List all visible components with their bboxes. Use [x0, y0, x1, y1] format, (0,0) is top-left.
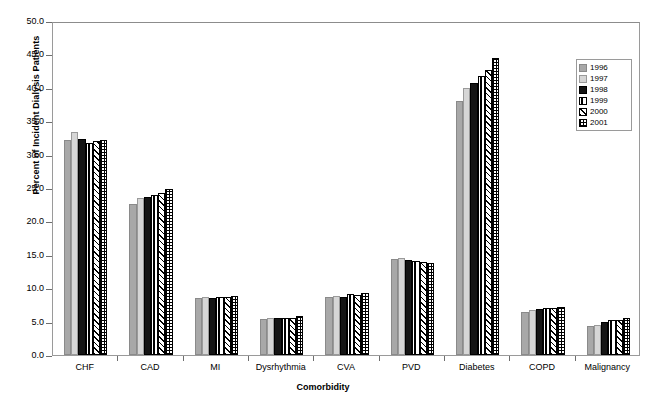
x-axis-tick-label: Malignancy [557, 362, 646, 372]
bar-mi-2001 [231, 296, 238, 355]
bar-malignancy-1998 [601, 322, 608, 355]
legend-item-1996[interactable]: 1996 [579, 62, 629, 73]
bar-cva-1999 [347, 294, 354, 355]
legend-swatch-icon [579, 64, 587, 72]
bar-diabetes-1996 [456, 101, 463, 356]
legend-label: 1999 [590, 97, 608, 105]
bar-chf-2000 [93, 141, 100, 355]
bar-pvd-1998 [405, 260, 412, 355]
legend: 199619971998199920002001 [576, 59, 632, 131]
legend-label: 2000 [590, 108, 608, 116]
bar-cad-1999 [151, 195, 158, 355]
legend-item-2000[interactable]: 2000 [579, 106, 629, 117]
bar-mi-1999 [216, 297, 223, 355]
bar-cva-2000 [354, 295, 361, 355]
bar-malignancy-2001 [623, 318, 630, 355]
bar-pvd-1999 [412, 261, 419, 355]
x-axis-tick-mark [183, 356, 184, 361]
bar-cva-1997 [333, 296, 340, 355]
y-axis-tick-label: 5.0 [4, 318, 44, 327]
x-axis-title: Comorbidity [0, 382, 646, 392]
y-axis-tick-label: 20.0 [4, 217, 44, 226]
legend-item-1997[interactable]: 1997 [579, 73, 629, 84]
bar-malignancy-1999 [608, 320, 615, 355]
bar-diabetes-1999 [478, 76, 485, 355]
x-axis-tick-mark [379, 356, 380, 361]
legend-label: 1996 [590, 64, 608, 72]
bar-pvd-1997 [398, 258, 405, 355]
bar-malignancy-1996 [587, 326, 594, 355]
legend-swatch-icon [579, 108, 587, 116]
bar-chf-1999 [86, 143, 93, 355]
legend-item-1999[interactable]: 1999 [579, 95, 629, 106]
bar-copd-1999 [543, 308, 550, 355]
legend-swatch-icon [579, 75, 587, 83]
bar-pvd-2001 [427, 263, 434, 355]
bar-cad-2001 [165, 189, 172, 355]
bar-cva-1996 [325, 297, 332, 355]
bar-pvd-2000 [420, 262, 427, 355]
bar-cad-1998 [144, 197, 151, 355]
bar-copd-2001 [557, 307, 564, 355]
bar-cad-1997 [137, 198, 144, 355]
legend-label: 1998 [590, 86, 608, 94]
y-axis-tick-label: 25.0 [4, 184, 44, 193]
legend-item-2001[interactable]: 2001 [579, 117, 629, 128]
bar-diabetes-2001 [492, 58, 499, 355]
y-axis-tick-label: 0.0 [4, 351, 44, 360]
legend-label: 2001 [590, 119, 608, 127]
bar-copd-1998 [536, 309, 543, 355]
y-axis-tick-label: 50.0 [4, 17, 44, 26]
plot-area [52, 22, 640, 356]
chart-root: Percent of Incident Dialysis Patients 50… [0, 0, 646, 410]
bar-dysrhythmia-1997 [267, 318, 274, 355]
bar-mi-1996 [195, 298, 202, 355]
bar-copd-1996 [521, 312, 528, 355]
x-axis-tick-mark [509, 356, 510, 361]
y-axis-tick-label: 15.0 [4, 251, 44, 260]
legend-swatch-icon [579, 97, 587, 105]
y-axis-tick-label: 35.0 [4, 117, 44, 126]
bar-copd-1997 [529, 310, 536, 355]
legend-swatch-icon [579, 86, 587, 94]
x-axis-tick-mark [575, 356, 576, 361]
bar-cva-2001 [361, 293, 368, 355]
bar-chf-2001 [100, 140, 107, 355]
bar-dysrhythmia-1998 [274, 318, 281, 355]
bar-diabetes-1998 [470, 83, 477, 355]
bar-mi-2000 [224, 297, 231, 355]
bar-chf-1998 [78, 139, 85, 355]
bar-mi-1997 [202, 297, 209, 355]
x-axis-tick-mark [444, 356, 445, 361]
bar-malignancy-2000 [616, 320, 623, 355]
y-axis-tick-label: 30.0 [4, 151, 44, 160]
bar-dysrhythmia-2000 [289, 318, 296, 355]
bar-chf-1997 [71, 132, 78, 355]
y-axis-tick-label: 40.0 [4, 84, 44, 93]
legend-swatch-icon [579, 119, 587, 127]
y-axis-tick-label: 45.0 [4, 50, 44, 59]
y-axis-tick-mark [46, 356, 52, 357]
legend-item-1998[interactable]: 1998 [579, 84, 629, 95]
bar-copd-2000 [550, 308, 557, 355]
bar-diabetes-1997 [463, 88, 470, 355]
bar-mi-1998 [209, 298, 216, 355]
bar-cva-1998 [340, 297, 347, 355]
bar-pvd-1996 [391, 259, 398, 355]
bar-cad-2000 [158, 193, 165, 355]
bar-dysrhythmia-1999 [282, 318, 289, 355]
x-axis-tick-mark [248, 356, 249, 361]
bar-chf-1996 [64, 140, 71, 355]
bar-dysrhythmia-1996 [260, 319, 267, 355]
bar-malignancy-1997 [594, 325, 601, 355]
bar-cad-1996 [129, 204, 136, 355]
bar-dysrhythmia-2001 [296, 316, 303, 355]
x-axis-tick-mark [117, 356, 118, 361]
y-axis-tick-label: 10.0 [4, 284, 44, 293]
x-axis-tick-mark [313, 356, 314, 361]
bar-diabetes-2000 [485, 70, 492, 355]
legend-label: 1997 [590, 75, 608, 83]
